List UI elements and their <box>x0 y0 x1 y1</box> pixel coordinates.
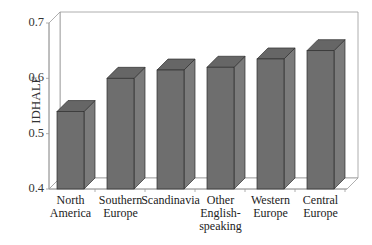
bar-chart: IDHALF 0.40.50.60.7 North AmericaSouther… <box>0 0 372 245</box>
x-category-label: Central Europe <box>291 194 351 220</box>
bar-side <box>284 48 295 189</box>
y-tick-label: 0.5 <box>18 126 44 141</box>
bar-side <box>134 67 145 189</box>
bar-side <box>234 56 245 189</box>
bar-side <box>184 59 195 189</box>
bar-front <box>307 51 334 189</box>
bar-front <box>157 70 184 189</box>
bar-front <box>207 67 234 189</box>
y-tick-label: 0.7 <box>18 15 44 30</box>
bar-front <box>57 112 84 189</box>
bar-front <box>257 59 284 189</box>
bar-side <box>334 40 345 189</box>
bar-front <box>107 78 134 189</box>
y-tick-label: 0.6 <box>18 70 44 85</box>
bar-side <box>84 101 95 189</box>
